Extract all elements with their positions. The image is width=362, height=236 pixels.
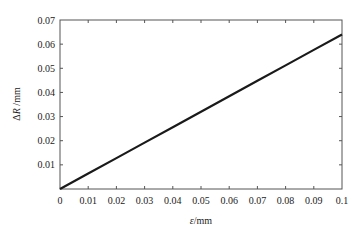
- y-axis-title: ΔR /mm: [11, 87, 22, 121]
- data-series: [60, 35, 342, 190]
- plot-border: [60, 20, 342, 189]
- x-axis: 00.010.020.030.040.050.060.070.080.090.1: [58, 20, 349, 206]
- x-tick-label: 0.07: [249, 195, 267, 206]
- y-tick-label: 0.07: [38, 15, 56, 26]
- y-axis: 0.010.020.030.040.050.060.07: [38, 15, 343, 171]
- x-axis-title: ε/mm: [190, 215, 213, 226]
- y-tick-label: 0.06: [38, 39, 56, 50]
- plot-frame: [60, 20, 342, 189]
- x-tick-label: 0.1: [336, 195, 349, 206]
- x-tick-label: 0: [58, 195, 63, 206]
- line-chart: 00.010.020.030.040.050.060.070.080.090.1…: [0, 0, 362, 236]
- series-line: [60, 35, 342, 190]
- x-tick-label: 0.06: [220, 195, 238, 206]
- y-tick-label: 0.03: [38, 111, 56, 122]
- y-tick-label: 0.02: [38, 135, 56, 146]
- x-tick-label: 0.05: [192, 195, 210, 206]
- x-tick-label: 0.01: [79, 195, 97, 206]
- y-tick-label: 0.04: [38, 87, 56, 98]
- x-tick-label: 0.08: [277, 195, 295, 206]
- y-tick-label: 0.01: [38, 159, 56, 170]
- x-tick-label: 0.03: [136, 195, 154, 206]
- y-tick-label: 0.05: [38, 63, 56, 74]
- x-tick-label: 0.09: [305, 195, 323, 206]
- x-tick-label: 0.04: [164, 195, 182, 206]
- x-tick-label: 0.02: [108, 195, 126, 206]
